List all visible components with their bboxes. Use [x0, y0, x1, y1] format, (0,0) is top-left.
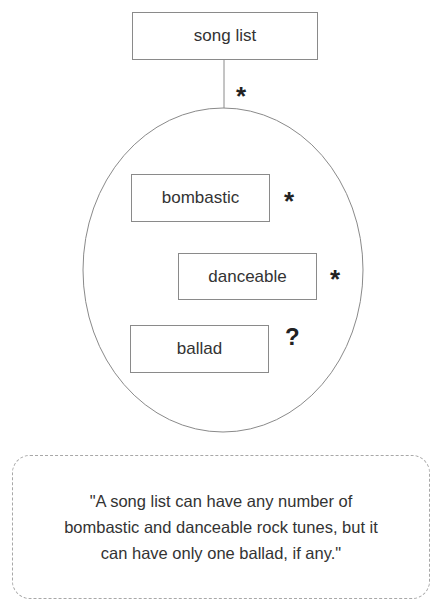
song-list-label: song list — [194, 26, 256, 46]
danceable-label: danceable — [208, 267, 286, 287]
ballad-multiplicity: ? — [285, 325, 300, 349]
bombastic-label: bombastic — [162, 188, 239, 208]
note-line-2: bombastic and danceable rock tunes, but … — [64, 514, 378, 540]
bombastic-node: bombastic — [131, 174, 270, 222]
root-multiplicity-asterisk: * — [236, 83, 246, 109]
ballad-node: ballad — [130, 325, 269, 373]
bombastic-multiplicity: * — [284, 188, 294, 214]
ballad-label: ballad — [177, 339, 222, 359]
explanation-note: "A song list can have any number of bomb… — [12, 455, 430, 599]
song-list-node: song list — [132, 12, 318, 60]
danceable-node: danceable — [178, 253, 317, 300]
note-line-3: can have only one ballad, if any." — [64, 540, 378, 566]
danceable-multiplicity: * — [330, 266, 340, 292]
note-line-1: "A song list can have any number of — [64, 488, 378, 514]
